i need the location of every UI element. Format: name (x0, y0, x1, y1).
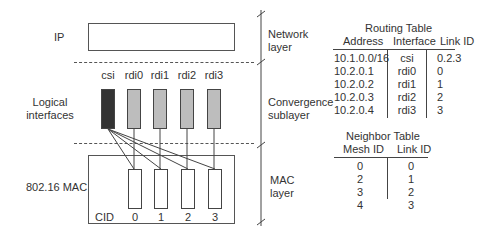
routing-row-4-address: 10.2.0.4 (334, 104, 374, 117)
routing-table-title: Routing Table (365, 22, 432, 35)
routing-row-0-link: 0.2.3 (437, 52, 461, 65)
cid-value-2: 2 (181, 211, 195, 224)
routing-row-1-link: 0 (437, 65, 443, 78)
routing-header-interface: Interface (393, 35, 436, 48)
neighbor-row-1-link: 1 (396, 173, 426, 186)
cid-label: CID (95, 211, 114, 224)
routing-row-3-interface: rdi2 (388, 91, 426, 104)
neighbor-table-title: Neighbor Table (346, 130, 420, 143)
layer-network-line-1: Network (268, 28, 308, 41)
cid-box-0 (128, 169, 142, 209)
routing-header-link-id: Link ID (440, 35, 474, 48)
layer-network-line-2: layer (268, 41, 308, 54)
layer-label-convergence: Convergence sublayer (268, 96, 333, 122)
neighbor-row-2-link: 2 (396, 186, 426, 199)
routing-row-1-address: 10.2.0.1 (334, 65, 374, 78)
cid-box-3 (208, 169, 222, 209)
routing-header-address: Address (343, 35, 383, 48)
routing-row-2-interface: rdi1 (388, 78, 426, 91)
cid-box-2 (181, 169, 195, 209)
cid-value-3: 3 (208, 211, 222, 224)
routing-row-3-link: 2 (437, 91, 443, 104)
layer-mac-line-1: MAC (270, 174, 294, 187)
neighbor-divider (387, 157, 388, 199)
routing-row-2-link: 1 (437, 78, 443, 91)
layer-convergence-line-1: Convergence (268, 96, 333, 109)
routing-row-4-interface: rdi3 (388, 104, 426, 117)
routing-row-1-interface: rdi0 (388, 65, 426, 78)
cid-value-0: 0 (128, 211, 142, 224)
routing-header-underline (333, 49, 455, 50)
layer-convergence-line-2: sublayer (268, 109, 333, 122)
neighbor-row-0-mesh: 0 (345, 160, 375, 173)
neighbor-row-3-mesh: 4 (345, 199, 375, 212)
cid-box-1 (154, 169, 168, 209)
neighbor-header-mesh-id: Mesh ID (343, 143, 384, 156)
routing-row-3-address: 10.2.0.3 (334, 91, 374, 104)
neighbor-row-2-mesh: 3 (345, 186, 375, 199)
neighbor-row-1-mesh: 2 (345, 173, 375, 186)
neighbor-header-link-id: Link ID (397, 143, 431, 156)
cid-value-1: 1 (154, 211, 168, 224)
routing-divider-2 (426, 49, 427, 118)
neighbor-row-3-link: 3 (396, 199, 426, 212)
layer-label-mac: MAC layer (270, 174, 294, 200)
neighbor-row-0-link: 0 (396, 160, 426, 173)
layer-label-network: Network layer (268, 28, 308, 54)
routing-row-0-interface: csi (388, 52, 426, 65)
routing-row-4-link: 3 (437, 104, 443, 117)
routing-row-2-address: 10.2.0.2 (334, 78, 374, 91)
routing-row-0-address: 10.1.0.0/16 (334, 52, 389, 65)
layer-mac-line-2: layer (270, 187, 294, 200)
neighbor-header-underline (334, 157, 428, 158)
